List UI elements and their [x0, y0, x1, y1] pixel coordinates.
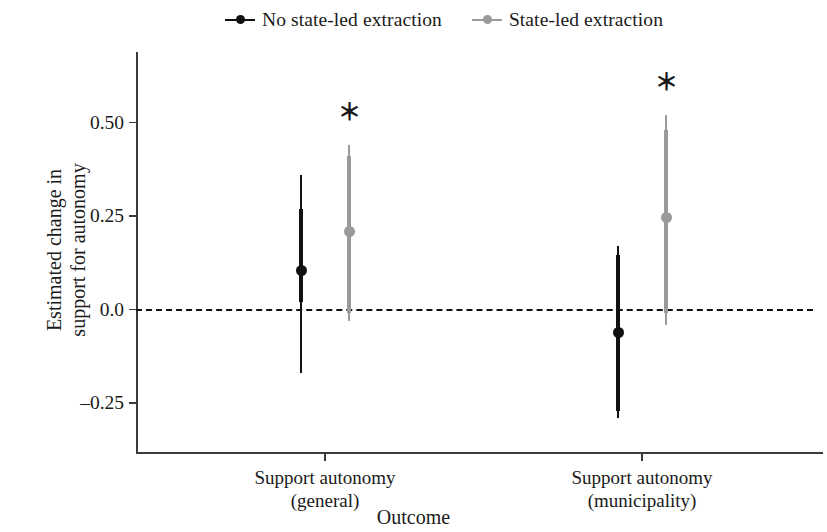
- y-axis-title: Estimated change in support for autonomy: [42, 90, 90, 410]
- estimate-point: [661, 212, 672, 223]
- y-axis-line: [136, 52, 138, 453]
- legend-marker-line-dot-icon: [225, 13, 255, 27]
- x-axis-tick: [324, 452, 326, 461]
- x-axis-line: [136, 452, 823, 454]
- chart-legend: No state-led extraction State-led extrac…: [0, 6, 827, 34]
- x-axis-tick-label-line2: (general): [195, 489, 455, 512]
- confidence-interval-inner: [299, 209, 303, 303]
- legend-item-state-led-extraction: State-led extraction: [472, 6, 663, 34]
- x-axis-tick-label-line1: Support autonomy: [255, 467, 396, 488]
- coefficient-plot-figure: No state-led extraction State-led extrac…: [0, 0, 827, 532]
- significance-asterisk: ＊: [329, 101, 369, 124]
- estimate-point: [296, 265, 307, 276]
- x-axis-tick-label-line2: (municipality): [512, 489, 772, 512]
- significance-asterisk: ＊: [646, 71, 686, 94]
- x-axis-tick-label: Support autonomy(municipality): [512, 466, 772, 512]
- estimate-point: [344, 226, 355, 237]
- zero-reference-line: [136, 309, 813, 311]
- y-axis-tick-label: –0.25: [32, 393, 124, 413]
- y-axis-tick: [129, 122, 138, 124]
- y-axis-tick-label: 0.0: [32, 300, 124, 320]
- x-axis-tick-label: Support autonomy(general): [195, 466, 455, 512]
- legend-item-no-state-led-extraction: No state-led extraction: [225, 6, 442, 34]
- x-axis-tick: [641, 452, 643, 461]
- estimate-point: [613, 327, 624, 338]
- legend-marker-line-dot-icon: [472, 13, 502, 27]
- y-axis-tick: [129, 402, 138, 404]
- x-axis-tick-label-line1: Support autonomy: [572, 467, 713, 488]
- legend-label: State-led extraction: [509, 10, 663, 30]
- y-axis-tick-label: 0.25: [32, 206, 124, 226]
- y-axis-tick: [129, 215, 138, 217]
- y-axis-tick-label: 0.50: [32, 113, 124, 133]
- legend-label: No state-led extraction: [262, 10, 442, 30]
